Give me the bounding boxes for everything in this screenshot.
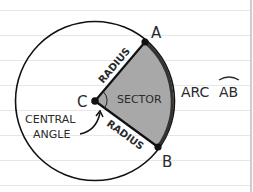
sector-label: SECTOR [117, 93, 162, 106]
arc-name-label: AB [219, 84, 238, 100]
arc-overline-icon [219, 77, 239, 80]
central-angle-arrow-icon [80, 113, 100, 134]
circle-sector-diagram: A B C RADIUS RADIUS SECTOR ARC AB CENTRA… [0, 0, 253, 192]
central-angle-label-line1: CENTRAL [25, 113, 76, 126]
point-b-label: B [162, 153, 172, 171]
point-a-label: A [151, 24, 162, 42]
center-label-c: C [77, 93, 87, 111]
center-point-c [91, 97, 99, 105]
arc-label: ARC [181, 84, 210, 100]
central-angle-label-line2: ANGLE [33, 128, 70, 141]
point-a [141, 38, 148, 45]
point-b [154, 143, 161, 150]
